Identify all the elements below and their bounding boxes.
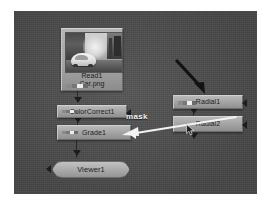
node-read1-thumbnail [65,32,123,73]
node-viewer1[interactable]: Viewer1 [52,161,130,178]
pipe-arrow-grade1-viewer1 [73,150,81,156]
pipe-arrow-read1-colorcorrect1 [74,97,82,103]
node-viewer1-label: Viewer1 [77,166,105,174]
node-read1[interactable]: Read1 Car.png [61,28,123,91]
node-radial2-label: Radial2 [196,120,220,127]
rgba-channel-strip-icon [62,131,78,134]
pipe-arrow-radial2-output [190,133,198,139]
node-colorcorrect1[interactable]: ColorCorrect1 [57,105,127,118]
pipe-grade1-viewer1 [76,140,77,158]
node-grade1-mask-input-stub[interactable] [129,129,136,139]
node-colorcorrect1-input-stub[interactable] [126,109,131,117]
mask-annotation-label: mask [126,112,148,121]
node-radial2[interactable]: Radial2 [173,116,243,132]
rgba-channel-strip-icon [66,84,88,88]
pointer-arrow-icon [174,59,220,97]
pipe-read1-colorcorrect1 [77,91,78,100]
rgba-channel-strip-icon [62,110,78,113]
node-grade1-label: Grade1 [82,129,106,136]
node-radial2-input-stub[interactable] [242,121,247,129]
node-grade1[interactable]: Grade1 [57,125,131,140]
node-radial1-input-stub[interactable] [242,99,247,107]
node-viewer1-input-stub[interactable] [46,165,51,173]
screenshot-root: Read1 Car.png ColorCorrect1 Grade1 Viewe… [0,0,271,205]
rgba-channel-strip-icon [178,101,196,105]
node-radial1[interactable]: Radial1 [173,95,243,109]
node-radial1-label: Radial1 [196,98,220,105]
node-graph-canvas[interactable]: Read1 Car.png ColorCorrect1 Grade1 Viewe… [14,11,257,194]
